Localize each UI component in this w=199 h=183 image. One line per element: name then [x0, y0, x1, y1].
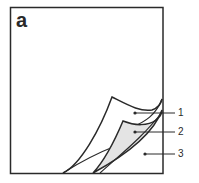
diagram-canvas	[0, 0, 199, 183]
panel-label: a	[16, 10, 27, 30]
dot-1	[133, 111, 136, 114]
callout-label-3: 3	[178, 149, 184, 159]
dot-3	[143, 152, 146, 155]
callout-label-2: 2	[178, 127, 184, 137]
dot-2	[133, 130, 136, 133]
callout-label-1: 1	[178, 108, 184, 118]
